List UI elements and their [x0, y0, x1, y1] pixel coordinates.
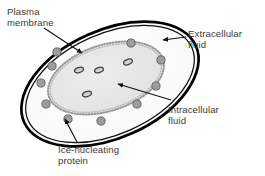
ice-nucleating-protein-dot: [97, 117, 105, 125]
ice-nucleating-protein-dot: [48, 62, 56, 70]
ice-nucleating-protein-dot: [37, 79, 45, 87]
ice-nucleating-protein-dot: [42, 100, 50, 108]
ice-nucleating-protein-dot: [157, 56, 165, 64]
label-plasma-membrane: Plasma membrane: [7, 6, 54, 29]
ice-nucleating-protein-dot: [127, 39, 135, 47]
label-extracellular-fluid: Extracellular fluid: [188, 28, 242, 51]
ice-nucleating-protein-dot: [152, 82, 160, 90]
ice-nucleating-protein-dot: [133, 100, 141, 108]
cell-diagram-figure: Plasma membrane Extracellular fluid Intr…: [0, 0, 265, 176]
label-ice-nucleating-protein: Ice-nucleating protein: [58, 144, 119, 167]
label-intracellular-fluid: Intracellular fluid: [168, 104, 219, 127]
ice-nucleating-protein-dot: [53, 48, 61, 56]
